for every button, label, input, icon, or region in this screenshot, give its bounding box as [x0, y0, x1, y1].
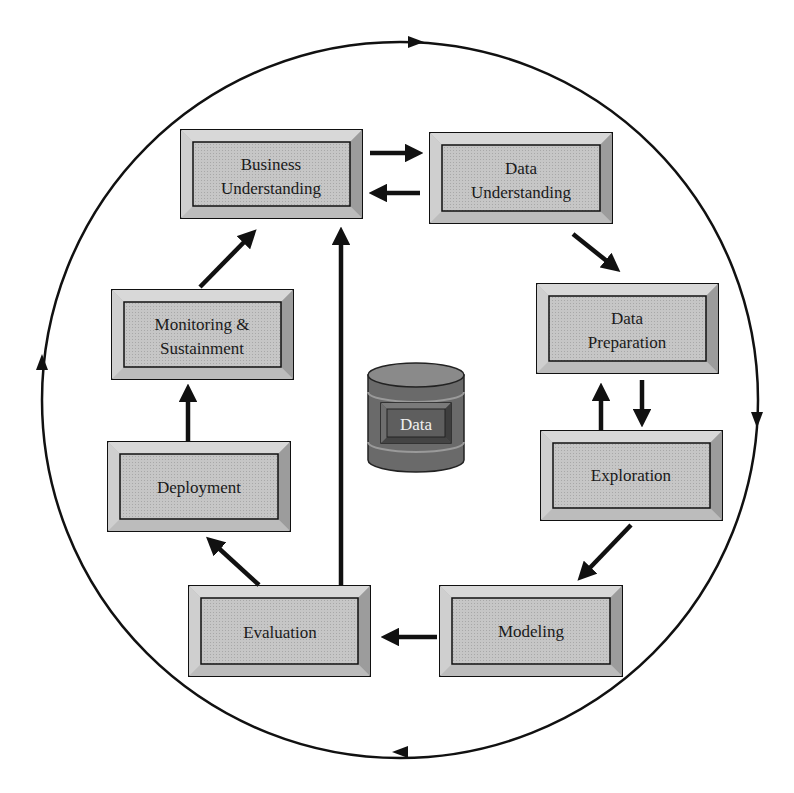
cycle-arrow-right-icon [751, 412, 763, 428]
cycle-arrow-left-icon [36, 354, 48, 370]
box-label: Understanding [221, 179, 322, 198]
data-cylinder-icon: Data [368, 363, 464, 472]
box-label: Business [241, 155, 301, 174]
box-label: Data [611, 309, 644, 328]
cycle-arrow-top-icon [408, 36, 424, 48]
arrow-monitoring-to-business [200, 236, 250, 287]
box-label: Modeling [498, 622, 565, 641]
box-exploration: Exploration [541, 431, 722, 520]
cycle-arrow-bottom-icon [392, 746, 408, 758]
box-monitoring-sustainment: Monitoring & Sustainment [112, 290, 293, 379]
process-diagram: Business Understanding Data Understandin… [0, 0, 794, 793]
arrow-evaluation-to-deployment [213, 543, 259, 585]
box-business-understanding: Business Understanding [181, 130, 362, 218]
box-data-understanding: Data Understanding [430, 133, 612, 223]
box-label: Preparation [588, 333, 667, 352]
box-label: Understanding [471, 183, 572, 202]
box-modeling: Modeling [440, 586, 622, 676]
data-label: Data [400, 415, 433, 434]
box-label: Sustainment [160, 339, 244, 358]
box-data-preparation: Data Preparation [537, 284, 718, 373]
box-label: Data [505, 159, 538, 178]
box-evaluation: Evaluation [189, 586, 370, 676]
box-deployment: Deployment [108, 442, 290, 531]
box-label: Evaluation [243, 623, 317, 642]
box-label: Monitoring & [155, 315, 250, 334]
arrow-exploration-to-modeling [584, 525, 631, 574]
box-label: Deployment [157, 478, 241, 497]
arrow-data-understanding-to-preparation [573, 234, 613, 266]
box-label: Exploration [591, 466, 672, 485]
